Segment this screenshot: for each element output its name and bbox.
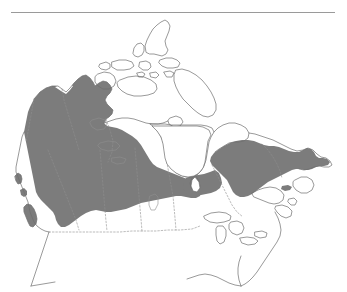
coastline-nova-scotia [275, 205, 292, 218]
coastline-baffin-island [174, 69, 216, 117]
coastline-axel-heiberg [133, 43, 144, 57]
coastline-lake-michigan [216, 226, 226, 244]
coastline-prince-patrick [99, 62, 110, 70]
coastline-lake-huron [229, 221, 244, 235]
coastline-us-gulf [187, 274, 241, 286]
border-international-49th-parallel [49, 226, 200, 232]
coastline-us-pacific [31, 232, 49, 286]
coastline-small-island-b [150, 72, 159, 78]
coastline-lake-ontario [255, 231, 267, 238]
coastline-lake-erie [240, 237, 258, 245]
coastline-devon-island [159, 58, 180, 68]
shaded-region-coastal-islet [20, 188, 27, 197]
coastline-florida [238, 256, 241, 286]
coastline-baja-mexico [31, 282, 55, 286]
coastline-lake-superior [204, 212, 231, 223]
coastline-us-atlantic [241, 212, 281, 286]
coastline-newfoundland [293, 177, 314, 193]
coastline-victoria-island [117, 76, 157, 96]
coastline-melville-island [112, 60, 134, 70]
shaded-region-anticosti [281, 185, 292, 191]
coastline-bathurst-island [139, 61, 151, 70]
coastline-small-island-c [164, 71, 174, 77]
shaded-region-quebec-labrador [210, 140, 330, 197]
canada-range-map: Canada Black and white outline map of Ca… [0, 0, 347, 292]
coastline-ellesmere-island [145, 20, 170, 56]
figure-root: Canada Black and white outline map of Ca… [0, 0, 347, 292]
coastline-cape-breton [288, 198, 297, 205]
coastline-keewatin-coast [104, 118, 168, 124]
